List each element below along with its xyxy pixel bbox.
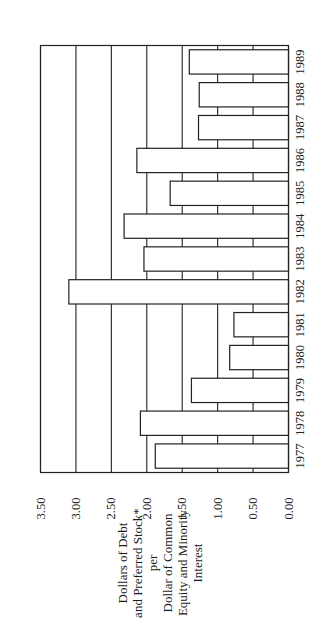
category-label-1985: 1985 (293, 181, 307, 206)
category-label-1981: 1981 (293, 312, 307, 337)
category-label-1987: 1987 (293, 115, 307, 140)
bars (69, 50, 289, 468)
bar-1984 (124, 214, 288, 238)
category-label-1989: 1989 (293, 49, 307, 74)
category-label-1983: 1983 (293, 247, 307, 272)
bar-1979 (191, 378, 288, 402)
bar-1983 (144, 247, 289, 271)
category-label-1980: 1980 (293, 345, 307, 370)
y-axis-title-line: Dollar of Common (160, 488, 175, 625)
bar-1989 (189, 50, 288, 74)
category-label-1978: 1978 (293, 411, 307, 436)
y-tick-label: 3.50 (34, 498, 48, 520)
x-axis-category-labels: 1977197819791980198119821983198419851986… (293, 49, 307, 468)
y-axis-title-line: Interest (190, 488, 205, 625)
category-label-1988: 1988 (293, 82, 307, 107)
y-tick-label: 1.00 (211, 498, 225, 520)
y-tick-label: 0.00 (282, 498, 296, 520)
bar-1985 (170, 181, 288, 205)
bar-1987 (199, 115, 289, 139)
bar-1982 (69, 280, 289, 304)
bar-1977 (155, 444, 288, 468)
y-axis-title: Dollars of Debtand Preferred Stock*perDo… (115, 488, 205, 625)
category-label-1979: 1979 (293, 378, 307, 403)
y-tick-label: 0.50 (246, 498, 260, 520)
category-label-1986: 1986 (293, 148, 307, 173)
bar-1981 (234, 313, 289, 337)
bar-1986 (137, 148, 289, 172)
bar-1978 (140, 411, 288, 435)
category-label-1977: 1977 (293, 444, 307, 469)
bar-1988 (199, 83, 288, 107)
y-axis-title-line: and Preferred Stock* (130, 488, 145, 625)
y-tick-label: 3.00 (69, 498, 83, 520)
y-axis-title-line: per (145, 488, 160, 625)
y-axis-title-line: Dollars of Debt (115, 488, 130, 625)
y-axis-title-line: Equity and Minority (175, 488, 190, 625)
category-label-1984: 1984 (293, 213, 307, 239)
category-label-1982: 1982 (293, 279, 307, 304)
bar-1980 (230, 345, 289, 369)
